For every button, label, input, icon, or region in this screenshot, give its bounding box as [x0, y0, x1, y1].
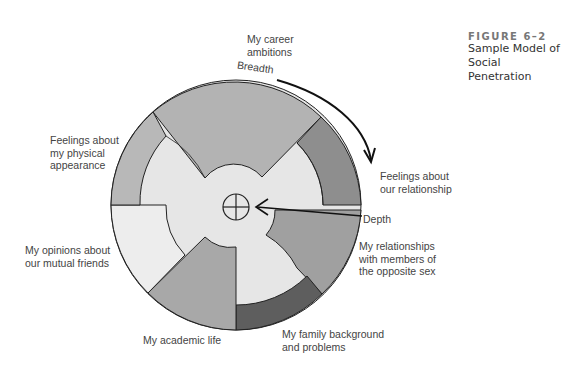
label-line: our relationship: [380, 183, 452, 196]
figure-caption: FIGURE 6–2 Sample Model of Social Penetr…: [468, 31, 573, 84]
figure-caption-line: Sample Model of Social: [468, 42, 573, 70]
label-line: Feelings about: [50, 134, 119, 147]
figure-caption-line: Penetration: [468, 70, 573, 84]
label-line: our mutual friends: [25, 257, 110, 270]
label-line: with members of: [359, 253, 436, 266]
label-line: My relationships: [359, 240, 436, 253]
label-line: and problems: [282, 341, 384, 354]
label-appearance: Feelings about my physical appearance: [50, 134, 119, 172]
label-academic: My academic life: [143, 334, 221, 347]
label-line: My opinions about: [25, 244, 110, 257]
label-relationship: Feelings about our relationship: [380, 170, 452, 195]
label-line: my physical: [50, 147, 119, 160]
label-family: My family background and problems: [282, 328, 384, 353]
label-opposite-sex: My relationships with members of the opp…: [359, 240, 436, 278]
label-line: appearance: [50, 159, 119, 172]
label-line: My career: [247, 33, 294, 46]
label-friends: My opinions about our mutual friends: [25, 244, 110, 269]
label-line: My family background: [282, 328, 384, 341]
label-line: Feelings about: [380, 170, 452, 183]
label-depth: Depth: [363, 213, 391, 226]
label-career: My career ambitions: [247, 33, 294, 58]
label-line: ambitions: [247, 46, 294, 59]
figure-number: FIGURE 6–2: [468, 31, 573, 42]
label-line: the opposite sex: [359, 265, 436, 278]
